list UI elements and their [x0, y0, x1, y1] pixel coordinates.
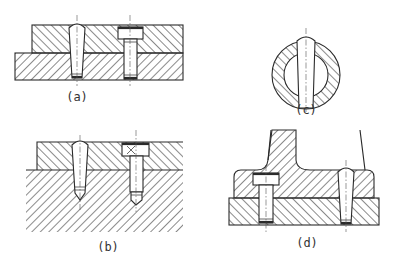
- base-body: [26, 170, 183, 232]
- base-plate: [229, 198, 379, 225]
- subfigure-label-a: (a): [66, 90, 88, 104]
- technical-drawing: [0, 0, 393, 267]
- upper-plate: [37, 142, 183, 170]
- subfigure-label-c: (c): [295, 103, 317, 117]
- subfigure-d: [229, 130, 379, 232]
- subfigure-a: [15, 15, 183, 86]
- subfigure-label-d: (d): [296, 236, 318, 250]
- upper-plate: [32, 25, 183, 53]
- subfigure-b: [26, 130, 183, 232]
- subfigure-label-b: (b): [97, 240, 119, 254]
- lower-plate: [15, 53, 183, 80]
- subfigure-c: [272, 28, 340, 112]
